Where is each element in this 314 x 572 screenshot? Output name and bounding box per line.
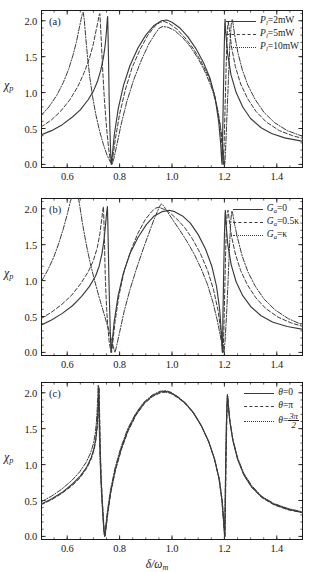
legend-label: Ga=0.5κ	[267, 215, 299, 228]
x-tick-label: 1.4	[262, 171, 292, 182]
x-tick-label: 1.2	[209, 171, 239, 182]
x-tick-label: 0.6	[52, 543, 82, 554]
legend-item: Ga=0	[233, 202, 299, 215]
y-tick-label: 1.5	[11, 423, 37, 434]
legend-label: Pl=5mW	[260, 27, 294, 40]
x-tick-label: 0.8	[105, 171, 135, 182]
plot-area-b: (b) Ga=0 Ga=0.5κ Ga=κ	[41, 198, 303, 356]
x-tick-label: 1.2	[209, 359, 239, 370]
legend-item: Ga=κ	[233, 228, 299, 241]
legend-label: θ=π	[278, 399, 293, 411]
y-tick-label: 2.0	[11, 15, 37, 26]
x-tick-label: 1.4	[262, 359, 292, 370]
y-tick-label: 0.0	[11, 531, 37, 542]
x-tick-label: 0.8	[105, 543, 135, 554]
panel-label-a: (a)	[49, 16, 61, 27]
legend-item: Ga=0.5κ	[233, 215, 299, 228]
plot-area-c: (c) θ=0 θ=π θ=3π2	[41, 382, 303, 540]
y-tick-label: 1.0	[11, 275, 37, 286]
y-tick-label: 0.5	[11, 311, 37, 322]
x-tick-label: 0.8	[105, 359, 135, 370]
x-axis-label: δ/ωm	[146, 558, 168, 572]
y-tick-label: 0.0	[11, 159, 37, 170]
legend-label: Ga=κ	[267, 228, 287, 241]
legend-item: Pl=2mW	[226, 14, 299, 27]
legend-label: Ga=0	[267, 202, 287, 215]
y-tick-label: 1.0	[11, 459, 37, 470]
panel-c: (c) θ=0 θ=π θ=3π2 χp δ/ωm 0.00	[0, 372, 314, 567]
legend-item: Pl=10mW	[226, 40, 299, 53]
legend-label: θ=0	[278, 386, 293, 398]
x-tick-label: 1.0	[157, 171, 187, 182]
y-tick-label: 2.0	[11, 203, 37, 214]
y-tick-label: 1.5	[11, 239, 37, 250]
x-tick-label: 1.0	[157, 543, 187, 554]
y-tick-label: 1.0	[11, 87, 37, 98]
y-tick-label: 1.5	[11, 51, 37, 62]
x-tick-label: 1.0	[157, 359, 187, 370]
x-tick-label: 0.6	[52, 171, 82, 182]
y-tick-label: 0.0	[11, 347, 37, 358]
x-tick-label: 1.4	[262, 543, 292, 554]
legend-item: θ=3π2	[244, 412, 299, 429]
legend-b: Ga=0 Ga=0.5κ Ga=κ	[233, 202, 299, 241]
panel-label-c: (c)	[49, 388, 61, 399]
legend-item: θ=0	[244, 386, 299, 399]
panel-label-b: (b)	[49, 204, 61, 215]
legend-item: Pl=5mW	[226, 27, 299, 40]
y-tick-label: 2.0	[11, 387, 37, 398]
x-tick-label: 0.6	[52, 359, 82, 370]
plot-area-a: (a) Pl=2mW Pl=5mW Pl=10mW	[41, 10, 303, 168]
legend-label: θ=3π2	[278, 412, 299, 430]
legend-label: Pl=10mW	[260, 40, 299, 53]
fraction-3pi-over-2: 3π2	[288, 412, 299, 430]
y-tick-label: 0.5	[11, 495, 37, 506]
panel-b: (b) Ga=0 Ga=0.5κ Ga=κ χp 0.00.51.01.52.0…	[0, 188, 314, 378]
y-tick-label: 0.5	[11, 123, 37, 134]
legend-label: Pl=2mW	[260, 14, 294, 27]
legend-a: Pl=2mW Pl=5mW Pl=10mW	[226, 14, 299, 53]
x-tick-label: 1.2	[209, 543, 239, 554]
panel-a: (a) Pl=2mW Pl=5mW Pl=10mW χp 0.00.51.01.…	[0, 0, 314, 190]
legend-c: θ=0 θ=π θ=3π2	[244, 386, 299, 429]
